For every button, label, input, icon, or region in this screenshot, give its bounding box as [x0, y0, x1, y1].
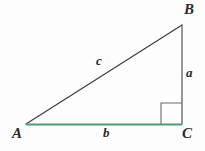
vertex-label-a: A [12, 126, 22, 141]
vertex-label-c: C [182, 126, 192, 141]
side-c-hypotenuse-line [26, 25, 182, 124]
side-label-b: b [103, 126, 110, 139]
side-label-a: a [186, 66, 193, 79]
side-label-c: c [96, 54, 102, 67]
vertex-label-b: B [184, 2, 194, 17]
right-triangle-figure: A B C a b c [0, 0, 205, 151]
right-angle-square-icon [161, 103, 182, 124]
